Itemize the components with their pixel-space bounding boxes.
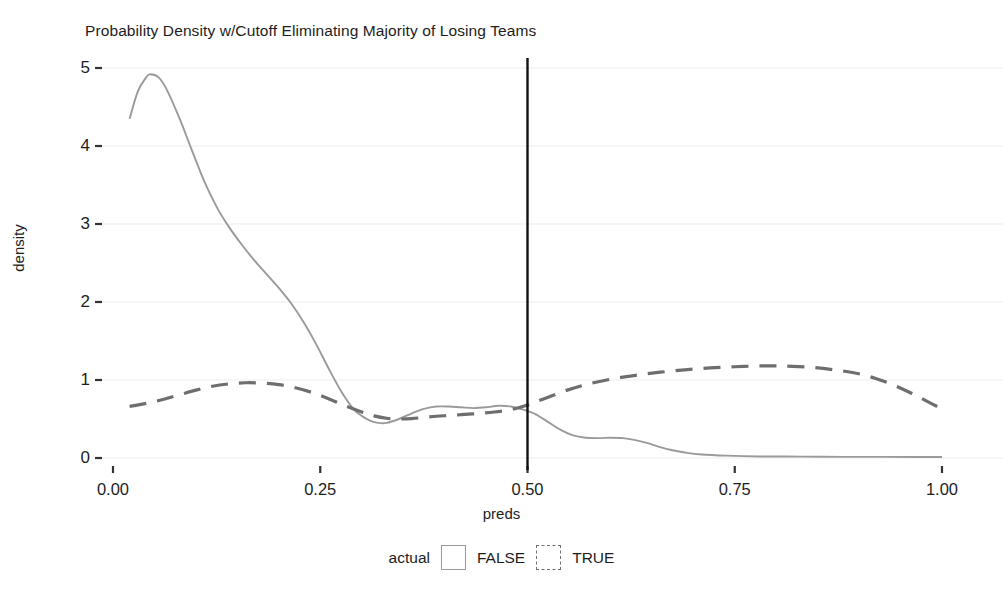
density-plot: Probability Density w/Cutoff Eliminating…	[0, 0, 1003, 596]
legend-label-true: TRUE	[572, 549, 614, 567]
series-line-true	[130, 366, 942, 419]
legend-key-true	[536, 545, 561, 570]
plot-area	[0, 0, 1003, 596]
legend-label-false: FALSE	[477, 549, 525, 567]
legend: actual FALSE TRUE	[0, 545, 1003, 570]
legend-title: actual	[389, 549, 430, 567]
series-line-false	[130, 74, 942, 457]
legend-key-false	[441, 545, 466, 570]
